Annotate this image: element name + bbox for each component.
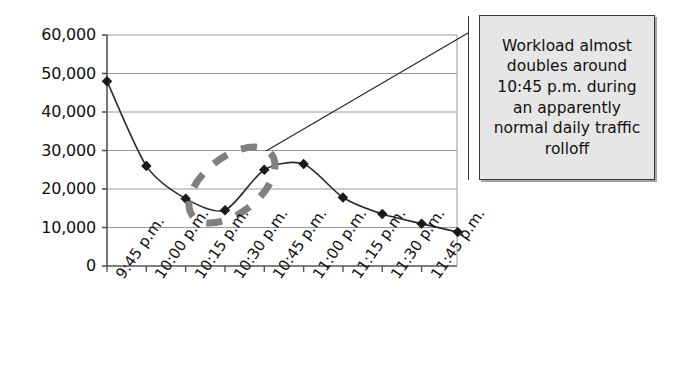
callout-box: Workload almost doubles around 10:45 p.m… [479, 15, 655, 180]
callout-text: Workload almost doubles around 10:45 p.m… [480, 36, 654, 160]
callout-stem-line [468, 16, 469, 180]
chart-page: 010,00020,00030,00040,00050,00060,000 9:… [0, 0, 685, 368]
